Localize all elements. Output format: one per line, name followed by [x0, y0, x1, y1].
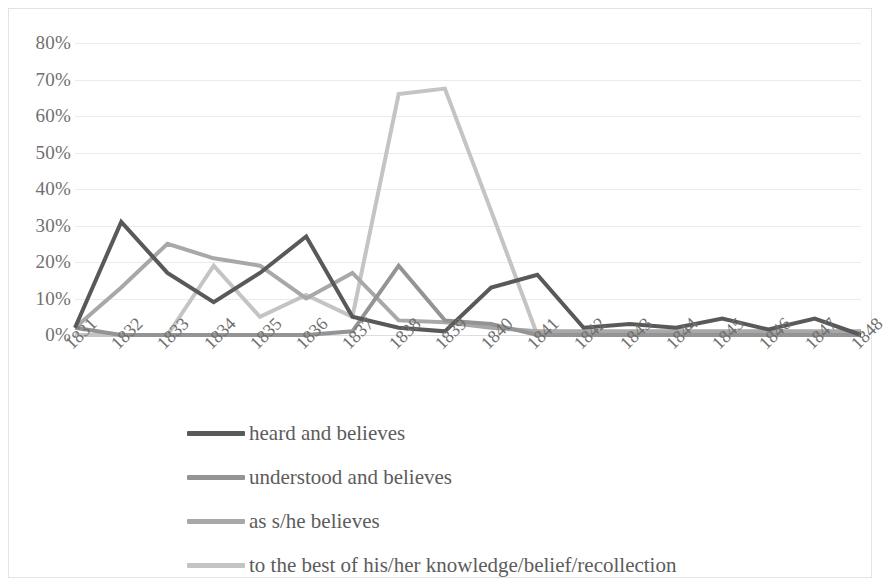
legend-item-label: as s/he believes [249, 509, 380, 533]
legend-item[interactable]: as s/he believes [187, 503, 827, 539]
legend-item[interactable]: understood and believes [187, 459, 827, 495]
y-axis: 0%10%20%30%40%50%60%70%80% [23, 31, 71, 347]
y-axis-tick-label: 30% [23, 214, 71, 238]
series-lines [75, 43, 861, 335]
y-axis-tick-label: 40% [23, 177, 71, 201]
legend-item[interactable]: heard and believes [187, 415, 827, 451]
legend-item-label: to the best of his/her knowledge/belief/… [249, 553, 676, 577]
legend-swatch-icon [187, 475, 245, 480]
legend-swatch-icon [187, 519, 245, 524]
plot-area [75, 43, 861, 335]
y-axis-tick-label: 60% [23, 104, 71, 128]
legend-swatch-icon [187, 431, 245, 436]
y-axis-tick-label: 80% [23, 31, 71, 55]
y-axis-tick-label: 10% [23, 287, 71, 311]
chart-frame: 0%10%20%30%40%50%60%70%80% 1831183218331… [8, 8, 872, 578]
chart-legend: heard and believesunderstood and believe… [187, 415, 827, 588]
legend-item-label: understood and believes [249, 465, 452, 489]
y-axis-tick-label: 70% [23, 68, 71, 92]
legend-item-label: heard and believes [249, 421, 405, 445]
x-axis: 1831183218331834183518361837183818391840… [75, 339, 861, 411]
y-axis-tick-label: 20% [23, 250, 71, 274]
legend-swatch-icon [187, 563, 245, 568]
y-axis-tick-label: 50% [23, 141, 71, 165]
legend-item[interactable]: to the best of his/her knowledge/belief/… [187, 547, 827, 583]
